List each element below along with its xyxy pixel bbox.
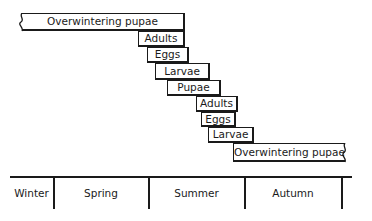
torn-edge-icon (341, 143, 349, 163)
stage-bar: Adults (196, 96, 238, 112)
stage-label: Adults (145, 33, 178, 44)
stage-bar: Adults (138, 31, 185, 47)
season-label-winter: Winter (10, 187, 53, 199)
stage-bar: Eggs (147, 47, 189, 63)
stage-label: Pupae (177, 82, 209, 93)
season-divider (341, 176, 343, 209)
stage-label: Overwintering pupae (234, 147, 345, 158)
stage-label: Larvae (164, 66, 200, 77)
stage-label: Eggs (205, 114, 230, 125)
season-label-autumn: Autumn (245, 187, 341, 199)
stage-bar: Pupae (167, 80, 221, 96)
season-label-spring: Spring (54, 187, 148, 199)
stage-bar: Larvae (208, 127, 254, 143)
timeline-axis (10, 176, 352, 178)
stage-bar: Larvae (155, 63, 210, 80)
stage-label: Overwintering pupae (47, 16, 158, 27)
stage-bar: Eggs (201, 112, 236, 127)
stage-label: Eggs (155, 49, 180, 60)
stage-label: Adults (200, 98, 233, 109)
stage-bar: Overwintering pupae (22, 13, 185, 31)
stage-label: Larvae (213, 129, 249, 140)
torn-edge-icon (18, 13, 26, 32)
life-cycle-diagram: Overwintering pupaeAdultsEggsLarvaePupae… (0, 0, 372, 221)
season-label-summer: Summer (149, 187, 244, 199)
stage-bar: Overwintering pupae (233, 143, 345, 162)
